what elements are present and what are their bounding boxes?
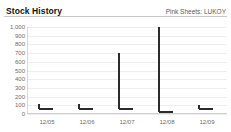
y-axis-tick-label: 200: [15, 94, 25, 100]
close-tick: [159, 111, 173, 113]
ohlc-series: [27, 27, 227, 114]
x-axis-labels: 12/0512/0612/0712/0812/09: [27, 119, 227, 131]
close-tick: [39, 108, 53, 110]
high-low-line: [118, 53, 120, 109]
ohlc-marker: [67, 27, 107, 114]
header-divider: [4, 16, 227, 17]
y-axis-tick-label: 400: [15, 76, 25, 82]
y-axis-tick-label: 800: [15, 41, 25, 47]
y-axis-tick-label: 300: [15, 85, 25, 91]
close-tick: [119, 108, 133, 110]
ohlc-marker: [107, 27, 147, 114]
y-axis-tick-label: 900: [15, 33, 25, 39]
x-axis-tick-label: 12/09: [187, 119, 227, 125]
x-axis-tick-label: 12/06: [67, 119, 107, 125]
ticker-symbol-label: Pink Sheets: LUKOY: [166, 8, 226, 15]
ohlc-marker: [27, 27, 67, 114]
y-axis-tick-label: 100: [15, 102, 25, 108]
x-axis-tick-label: 12/07: [107, 119, 147, 125]
y-axis-tick-label: 500: [15, 68, 25, 74]
close-tick: [79, 108, 93, 110]
ohlc-marker: [187, 27, 227, 114]
x-axis-tick-label: 12/05: [27, 119, 67, 125]
chart-plot-area: 1,0009008007006005004003002001000 12/051…: [0, 24, 231, 132]
y-axis-tick-label: 0: [22, 111, 25, 117]
stock-history-widget: Stock History Pink Sheets: LUKOY 1,00090…: [0, 0, 231, 132]
close-tick: [199, 108, 213, 110]
ohlc-marker: [147, 27, 187, 114]
high-low-line: [158, 27, 160, 112]
y-axis-tick-label: 700: [15, 50, 25, 56]
page-title: Stock History: [6, 6, 62, 16]
gridline: [27, 114, 227, 115]
widget-header: Stock History Pink Sheets: LUKOY: [0, 6, 231, 22]
x-axis-tick-label: 12/08: [147, 119, 187, 125]
y-axis-labels: 1,0009008007006005004003002001000: [0, 24, 26, 116]
y-axis-tick-label: 1,000: [10, 24, 25, 30]
y-axis-tick-label: 600: [15, 59, 25, 65]
